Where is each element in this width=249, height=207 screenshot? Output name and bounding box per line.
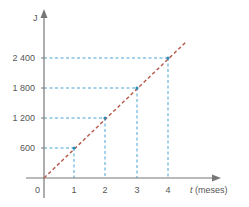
axes — [26, 16, 214, 198]
x-tick-label: 3 — [134, 186, 139, 195]
y-tick-label: 1 200 — [12, 114, 35, 123]
y-axis-arrow-icon — [41, 9, 48, 18]
x-tick-label: 1 — [71, 186, 76, 195]
x-tick-label: 4 — [165, 186, 170, 195]
data-points — [72, 56, 169, 149]
y-tick-label: 1 800 — [12, 84, 35, 93]
y-tick-label: 2 400 — [12, 54, 35, 63]
chart-canvas — [0, 0, 249, 207]
x-axis-unit: (meses) — [195, 185, 228, 195]
y-axis-label: J — [33, 14, 38, 23]
x-tick-label: 2 — [102, 186, 107, 195]
x-axis-variable: t — [190, 185, 193, 195]
x-axis-arrow-icon — [212, 175, 221, 182]
x-axis-label: t (meses) — [190, 186, 228, 195]
y-tick-label: 600 — [20, 144, 35, 153]
data-line — [44, 41, 187, 178]
origin-label: 0 — [35, 186, 40, 195]
